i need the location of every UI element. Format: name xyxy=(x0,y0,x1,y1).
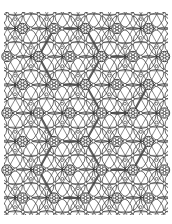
rosette-dot xyxy=(166,167,169,170)
small-circle xyxy=(29,8,32,11)
small-circle xyxy=(163,126,166,129)
small-circle xyxy=(68,41,71,44)
small-circle xyxy=(155,102,158,105)
rosette xyxy=(96,108,106,118)
small-circle xyxy=(0,27,1,30)
small-circle xyxy=(61,8,64,11)
petal-circle xyxy=(149,0,172,2)
small-circle xyxy=(139,74,142,77)
small-circle xyxy=(100,182,103,185)
small-circle xyxy=(131,41,134,44)
rosette-dot xyxy=(66,113,69,116)
small-circle xyxy=(0,65,1,68)
small-circle xyxy=(124,121,127,124)
small-circle xyxy=(84,182,87,185)
rosette-dot xyxy=(34,113,37,116)
small-circle xyxy=(37,13,40,16)
small-circle xyxy=(92,159,95,162)
small-circle xyxy=(108,74,111,77)
small-circle xyxy=(84,210,87,213)
small-circle xyxy=(14,36,17,39)
rosette-dot xyxy=(18,142,21,145)
small-circle xyxy=(131,126,134,129)
rosette xyxy=(2,165,12,175)
small-circle xyxy=(29,65,32,68)
small-circle xyxy=(171,18,172,21)
small-circle xyxy=(139,187,142,190)
small-circle xyxy=(123,102,126,105)
rosette-dot xyxy=(40,167,43,170)
small-circle xyxy=(61,196,64,199)
small-circle xyxy=(6,13,9,16)
small-circle xyxy=(45,74,48,77)
small-circle xyxy=(6,41,9,44)
small-circle xyxy=(108,55,111,58)
small-circle xyxy=(84,154,87,157)
small-circle xyxy=(124,177,127,180)
small-circle xyxy=(76,0,79,2)
rosette-dot xyxy=(50,85,53,88)
small-circle xyxy=(53,126,56,129)
small-circle xyxy=(29,83,32,86)
small-circle xyxy=(92,121,95,124)
rosette-lattice-svg xyxy=(0,0,172,224)
rosette xyxy=(65,108,75,118)
rosette-dot xyxy=(129,113,132,116)
small-circle xyxy=(0,196,1,199)
small-circle xyxy=(53,97,56,100)
small-circle xyxy=(100,126,103,129)
rosette-dot xyxy=(144,85,147,88)
small-circle xyxy=(92,65,95,68)
rosette-dot xyxy=(18,29,21,32)
small-circle xyxy=(100,97,103,100)
rosette xyxy=(143,136,153,146)
small-circle xyxy=(123,159,126,162)
small-circle xyxy=(155,177,158,180)
small-circle xyxy=(131,210,134,213)
rosette-dot xyxy=(97,113,100,116)
small-circle xyxy=(14,74,17,77)
small-circle xyxy=(116,182,119,185)
rosette xyxy=(49,193,59,203)
small-circle xyxy=(147,69,150,72)
small-circle xyxy=(100,154,103,157)
small-circle xyxy=(139,18,142,21)
small-circle xyxy=(53,154,56,157)
small-circle xyxy=(139,149,142,152)
rosette xyxy=(80,79,90,89)
small-circle xyxy=(147,97,150,100)
small-circle xyxy=(0,215,1,218)
rosette xyxy=(49,23,59,33)
small-circle xyxy=(14,55,17,58)
rosette-dot xyxy=(8,110,11,113)
small-circle xyxy=(14,112,17,115)
rosette-dot xyxy=(55,26,58,29)
rosette-dot xyxy=(87,139,90,142)
small-circle xyxy=(171,206,172,209)
rosette xyxy=(80,136,90,146)
small-circle xyxy=(171,0,172,2)
small-circle xyxy=(45,18,48,21)
rosette-dot xyxy=(144,142,147,145)
small-circle xyxy=(116,69,119,72)
small-circle xyxy=(14,168,17,171)
rosette-dot xyxy=(24,82,27,85)
small-circle xyxy=(37,126,40,129)
rosette-dot xyxy=(144,29,147,32)
small-circle xyxy=(131,69,134,72)
small-circle xyxy=(14,0,17,2)
small-circle xyxy=(29,215,32,218)
rosette xyxy=(49,136,59,146)
small-circle xyxy=(76,93,79,96)
small-circle xyxy=(147,41,150,44)
rosette xyxy=(96,51,106,61)
small-circle xyxy=(61,27,64,30)
small-circle xyxy=(61,83,64,86)
small-circle xyxy=(84,41,87,44)
small-circle xyxy=(45,0,48,2)
small-circle xyxy=(21,126,24,129)
small-circle xyxy=(139,130,142,133)
small-circle xyxy=(14,206,17,209)
small-circle xyxy=(76,112,79,115)
small-circle xyxy=(108,130,111,133)
